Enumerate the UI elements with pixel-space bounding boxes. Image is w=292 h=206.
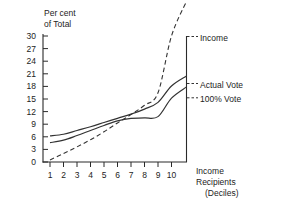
x-axis-title-line2: Recipients (196, 177, 236, 187)
x-tick-marks (50, 162, 172, 167)
y-tick-label-12: 12 (20, 107, 36, 117)
label-leader-lines (187, 37, 198, 98)
x-axis-title-line1: Income (196, 166, 224, 176)
x-tick-label-2: 2 (58, 170, 70, 180)
y-tick-label-3: 3 (20, 144, 36, 154)
x-tick-label-6: 6 (112, 170, 124, 180)
x-tick-label-5: 5 (98, 170, 110, 180)
chart-figure: Per cent of Total 30 27 24 21 18 15 12 9… (0, 0, 292, 206)
y-axis-title: Per cent of Total (44, 8, 76, 29)
y-tick-label-0: 0 (20, 157, 36, 167)
x-tick-label-4: 4 (85, 170, 97, 180)
series-label-100-percent-vote: 100% Vote (200, 94, 241, 104)
y-tick-label-18: 18 (20, 81, 36, 91)
x-tick-label-10: 10 (166, 170, 178, 180)
x-axis-title-line3: (Deciles) (196, 188, 239, 199)
y-tick-label-27: 27 (20, 44, 36, 54)
y-tick-marks (43, 36, 48, 162)
series-label-actual-vote: Actual Vote (200, 80, 243, 90)
y-tick-label-6: 6 (20, 132, 36, 142)
y-axis-title-line1: Per cent (44, 8, 76, 18)
series-line-100-percent-vote (50, 87, 187, 143)
x-tick-label-8: 8 (139, 170, 151, 180)
x-tick-label-9: 9 (152, 170, 164, 180)
y-tick-label-21: 21 (20, 69, 36, 79)
series-label-income: Income (200, 33, 228, 43)
x-tick-label-7: 7 (125, 170, 137, 180)
y-tick-label-9: 9 (20, 119, 36, 129)
y-axis-title-line2: of Total (44, 19, 71, 29)
x-tick-label-3: 3 (71, 170, 83, 180)
x-tick-label-1: 1 (44, 170, 56, 180)
y-tick-label-24: 24 (20, 56, 36, 66)
y-tick-label-15: 15 (20, 94, 36, 104)
y-tick-label-30: 30 (20, 31, 36, 41)
x-axis-title: Income Recipients (Deciles) (196, 166, 239, 199)
